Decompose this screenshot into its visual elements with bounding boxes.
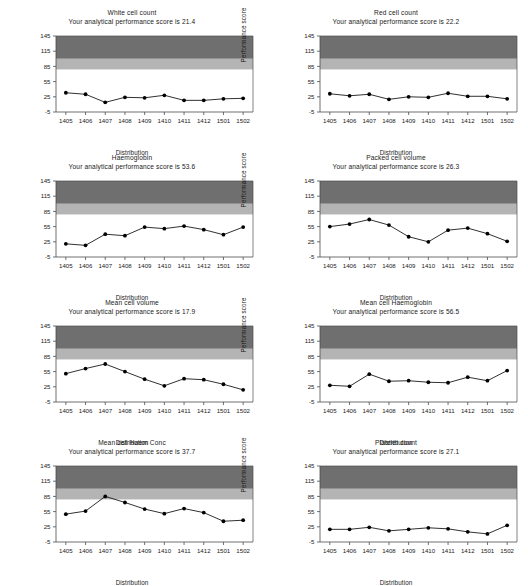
mid-performance-band	[320, 489, 517, 500]
mid-performance-band	[56, 204, 253, 215]
data-point-marker	[446, 527, 450, 531]
plot-area: Performance scoreDistribution-5255585115…	[264, 24, 528, 122]
y-tick-label: -5	[45, 538, 51, 545]
data-point-marker	[241, 388, 245, 392]
data-point-marker	[387, 529, 391, 533]
data-point-marker	[143, 507, 147, 511]
y-tick-label: 25	[44, 238, 51, 245]
x-tick-label: 1405	[59, 117, 73, 124]
x-axis-label: Distribution	[264, 579, 528, 586]
data-point-marker	[64, 242, 68, 246]
x-tick-label: 1407	[98, 117, 112, 124]
x-tick-label: 1411	[177, 117, 191, 124]
x-tick-label: 1412	[461, 262, 475, 269]
data-point-marker	[328, 225, 332, 229]
data-point-marker	[222, 519, 226, 523]
data-point-marker	[466, 226, 470, 230]
x-tick-label: 1411	[441, 547, 455, 554]
data-point-marker	[84, 243, 88, 247]
data-point-marker	[407, 379, 411, 383]
x-tick-label: 1411	[177, 407, 191, 414]
data-point-marker	[123, 95, 127, 99]
x-tick-label: 1405	[323, 262, 337, 269]
x-tick-label: 1502	[236, 547, 250, 554]
mid-performance-band	[56, 489, 253, 500]
plot-area: Performance scoreDistribution-5255585115…	[0, 314, 264, 412]
mid-performance-band	[56, 59, 253, 70]
data-point-marker	[143, 377, 147, 381]
x-tick-label: 1409	[402, 547, 416, 554]
data-point-marker	[486, 379, 490, 383]
x-tick-label: 1409	[402, 117, 416, 124]
data-point-marker	[426, 240, 430, 244]
data-point-marker	[202, 98, 206, 102]
y-tick-label: 25	[308, 238, 315, 245]
x-tick-label: 1501	[217, 407, 231, 414]
x-tick-label: 1405	[59, 262, 73, 269]
y-tick-label: 55	[44, 223, 51, 230]
x-tick-label: 1502	[500, 262, 514, 269]
chart-panel: Mean cell Haem ConcYour analytical perfo…	[0, 430, 264, 582]
data-point-marker	[123, 370, 127, 374]
data-point-marker	[387, 97, 391, 101]
x-tick-label: 1409	[138, 262, 152, 269]
y-axis-label: Performance score	[0, 430, 46, 500]
data-point-marker	[222, 382, 226, 386]
x-tick-label: 1409	[138, 547, 152, 554]
data-point-marker	[84, 509, 88, 513]
data-point-marker	[143, 96, 147, 100]
x-tick-label: 1410	[158, 262, 172, 269]
x-tick-label: 1412	[197, 117, 211, 124]
x-tick-label: 1408	[118, 262, 132, 269]
x-tick-label: 1410	[422, 407, 436, 414]
plot-area: Performance scoreDistribution-5255585115…	[264, 314, 528, 412]
x-tick-label: 1412	[461, 407, 475, 414]
chart-panel: Packed cell volumeYour analytical perfor…	[264, 145, 528, 290]
x-tick-label: 1408	[382, 262, 396, 269]
x-tick-label: 1405	[323, 117, 337, 124]
data-point-marker	[182, 377, 186, 381]
y-axis-label: Performance score	[0, 145, 46, 215]
data-point-marker	[182, 98, 186, 102]
x-tick-label: 1405	[59, 547, 73, 554]
x-tick-label: 1406	[343, 407, 357, 414]
chart-panel: Mean cell HaemoglobinYour analytical per…	[264, 290, 528, 430]
x-tick-label: 1501	[481, 407, 495, 414]
x-tick-label: 1410	[158, 117, 172, 124]
data-point-marker	[387, 223, 391, 227]
x-tick-label: 1411	[441, 117, 455, 124]
y-axis-label: Performance score	[0, 0, 46, 70]
dark-performance-band	[320, 326, 517, 349]
data-point-marker	[103, 495, 107, 499]
data-point-marker	[426, 95, 430, 99]
x-tick-label: 1407	[362, 262, 376, 269]
x-tick-label: 1407	[98, 547, 112, 554]
x-tick-label: 1411	[441, 407, 455, 414]
x-tick-label: 1410	[158, 407, 172, 414]
data-point-marker	[367, 372, 371, 376]
y-tick-label: -5	[309, 538, 315, 545]
mid-performance-band	[320, 349, 517, 360]
x-tick-label: 1501	[481, 117, 495, 124]
chart-panel: Mean cell volumeYour analytical performa…	[0, 290, 264, 430]
x-tick-label: 1502	[500, 407, 514, 414]
data-point-marker	[486, 94, 490, 98]
data-point-marker	[162, 384, 166, 388]
dark-performance-band	[320, 181, 517, 204]
y-tick-label: 25	[44, 93, 51, 100]
data-point-marker	[505, 97, 509, 101]
y-tick-label: 55	[308, 78, 315, 85]
x-tick-label: 1411	[177, 547, 191, 554]
x-tick-label: 1412	[197, 262, 211, 269]
y-axis-label: Performance score	[240, 145, 310, 215]
plot-area: Performance scoreDistribution-5255585115…	[264, 454, 528, 552]
x-tick-label: 1408	[382, 547, 396, 554]
x-tick-label: 1412	[461, 547, 475, 554]
x-tick-label: 1410	[422, 262, 436, 269]
x-tick-label: 1408	[118, 117, 132, 124]
dark-performance-band	[56, 36, 253, 59]
y-tick-label: -5	[45, 108, 51, 115]
x-tick-label: 1406	[343, 262, 357, 269]
x-tick-label: 1406	[79, 407, 93, 414]
